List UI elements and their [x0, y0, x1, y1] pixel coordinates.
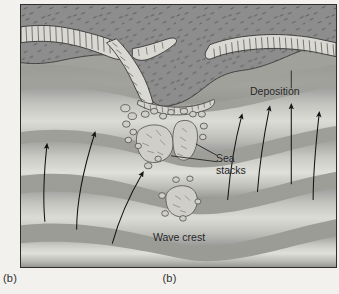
sea-stack-large-left: [136, 125, 173, 163]
figure-caption-center: (b): [0, 272, 339, 284]
sea-stack-lower-cluster: [166, 186, 197, 217]
figure-page: Deposition Seastacks Wave crest (b) (b): [0, 0, 339, 294]
coastal-erosion-illustration: [21, 5, 336, 267]
figure-frame: Deposition Seastacks Wave crest: [20, 4, 337, 268]
